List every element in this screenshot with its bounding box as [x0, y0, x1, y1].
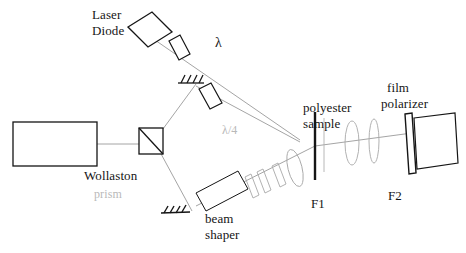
quarter-wave-plate [199, 83, 222, 109]
wollaston-prism [139, 128, 163, 154]
laser-diode-body [128, 12, 172, 47]
camera-body-shape [414, 113, 458, 169]
upper-mirror [178, 75, 204, 83]
wollaston-label-line2: prism [94, 188, 122, 201]
beam-shaper [196, 171, 248, 211]
upper-mirror-hatch-2 [187, 75, 191, 83]
laser-diode-label-line1: Laser [92, 8, 121, 23]
condenser-lens-body [284, 148, 307, 188]
lens-f1 [345, 121, 359, 165]
film-polarizer-label-line2: polarizer [381, 97, 428, 112]
lambda-label: λ [215, 35, 222, 51]
quarter-wave-label: λ/4 [222, 124, 237, 137]
lower-mirror-hatch-4 [182, 205, 186, 212]
half-wave-plate-body [169, 35, 190, 60]
upper-mirror-hatch-4 [199, 75, 203, 83]
plate-2 [257, 169, 271, 193]
optical-setup-figure: Laser Diode λ λ/4 Wollaston prism beam s… [0, 0, 466, 253]
upper-mirror-hatch-3 [193, 75, 197, 83]
lens-f2-body [369, 119, 379, 163]
lower-mirror [161, 205, 190, 213]
polyester-sample-label-line2: sample [303, 117, 340, 132]
plate-1 [245, 174, 259, 198]
wollaston-label-line1: Wollaston [84, 169, 137, 184]
laser-diode-label-line2: Diode [92, 24, 124, 39]
film-polarizer-label-line1: film [387, 81, 409, 96]
f1-label: F1 [311, 197, 325, 212]
lower-mirror-hatch-1 [164, 206, 168, 213]
beam-shaper-label-line2: shaper [205, 228, 240, 243]
lens-f1-body [345, 121, 359, 165]
polyester-sample-label-line1: polyester [303, 101, 352, 116]
quarter-wave-plate-body [199, 83, 222, 109]
f2-label: F2 [388, 189, 402, 204]
lens-f2 [369, 119, 379, 163]
half-wave-plate [169, 35, 190, 60]
detector-box [13, 122, 97, 166]
laser-diode [128, 12, 172, 47]
beam-sample-to-camera [315, 133, 412, 146]
beam-wollaston-to-upper-mirror [160, 84, 196, 133]
condenser-lens [284, 148, 307, 188]
beam-shaper-body [196, 171, 248, 211]
detector-box-body [13, 122, 97, 166]
beam-shaper-plates [245, 163, 286, 198]
upper-mirror-hatch-1 [181, 75, 185, 83]
camera-body [414, 113, 458, 169]
beam-paths [97, 38, 412, 211]
beam-wollaston-to-lower-mirror [160, 152, 192, 211]
beam-shaper-label-line1: beam [205, 212, 234, 227]
